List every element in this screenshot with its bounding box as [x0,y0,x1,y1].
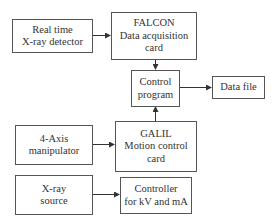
node-label-line: X-ray [42,183,67,196]
node-galil-motion-control-card: GALIL Motion control card [115,121,197,172]
node-falcon-data-acquisition-card: FALCON Data acquisition card [111,12,197,60]
node-label-line: card [147,153,165,166]
node-label-line: X-ray detector [22,36,83,49]
node-data-file: Data file [212,76,265,99]
node-label-line: 4-Axis [40,133,69,146]
node-label-line: Controller [134,183,177,196]
node-label-line: manipulator [29,145,80,158]
node-controller-kv-ma: Controller for kV and mA [120,177,192,214]
node-realtime-xray-detector: Real time X-ray detector [12,19,93,53]
node-label-line: Motion control [124,140,187,153]
node-label-line: Data file [220,81,256,94]
node-label-line: Data acquisition [120,30,189,43]
node-label-line: source [40,195,67,208]
node-label-line: Control [139,76,171,89]
node-label-line: for kV and mA [124,196,188,209]
node-label-line: program [138,89,174,102]
node-control-program: Control program [131,70,180,107]
node-label-line: Real time [32,24,73,37]
node-label-line: card [145,42,163,55]
node-4-axis-manipulator: 4-Axis manipulator [15,125,93,165]
node-xray-source: X-ray source [15,175,93,215]
node-label-line: GALIL [140,128,172,141]
node-label-line: FALCON [133,17,174,30]
